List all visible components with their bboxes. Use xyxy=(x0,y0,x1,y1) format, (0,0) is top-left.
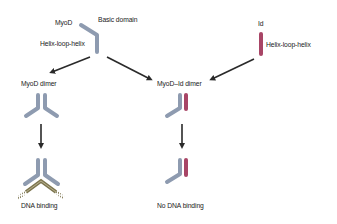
myod-dimer-shape xyxy=(26,95,57,116)
diagram-canvas xyxy=(0,0,337,224)
label-id-hlh: Helix-loop-helix xyxy=(266,41,311,49)
label-no-dna-binding: No DNA binding xyxy=(157,202,204,210)
arrow-myod-to-myodid xyxy=(107,57,150,79)
label-myod-id-dimer: MyoD–Id dimer xyxy=(157,80,202,88)
no-dna-dimer-shape xyxy=(167,160,186,182)
label-myod-hlh: Helix-loop-helix xyxy=(40,40,85,48)
label-dna-binding: DNA binding xyxy=(21,202,58,210)
label-myod: MyoD xyxy=(55,19,72,27)
label-basic-domain: Basic domain xyxy=(98,16,137,24)
label-myod-dimer: MyoD dimer xyxy=(21,80,56,88)
arrow-id-to-myodid xyxy=(212,59,254,79)
label-id: Id xyxy=(258,20,263,28)
myod-id-dimer-shape xyxy=(167,95,186,116)
arrow-myod-to-dimer xyxy=(52,57,90,72)
